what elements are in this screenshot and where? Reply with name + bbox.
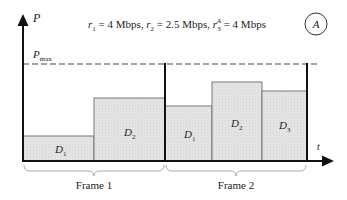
frame2-label: Frame 2: [218, 179, 254, 191]
frame-1-blocks: [23, 98, 165, 161]
pmax-label: Pmax: [32, 48, 52, 63]
power-frame-diagram: P t Pmax r1 = 4 Mbps, r2 = 2.5 Mbps, r3A…: [0, 0, 347, 200]
svg-text:A: A: [312, 18, 320, 30]
y-axis-arrow-icon: [18, 14, 29, 26]
scenario-badge: A: [305, 13, 327, 35]
frame1-label: Frame 1: [76, 179, 112, 191]
x-axis-arrow-icon: [322, 156, 334, 167]
frame1-brace: [24, 165, 164, 176]
frame2-brace: [166, 165, 306, 176]
x-axis-label: t: [317, 141, 320, 152]
rates-header: r1 = 4 Mbps, r2 = 2.5 Mbps, r3A = 4 Mbps: [88, 17, 266, 33]
y-axis-label: P: [32, 11, 41, 25]
